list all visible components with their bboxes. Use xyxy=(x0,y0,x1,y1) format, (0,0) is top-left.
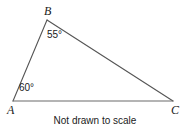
vertex-label-a: A xyxy=(7,104,14,116)
angle-label-a: 60° xyxy=(19,83,34,93)
triangle-diagram xyxy=(0,0,190,132)
angle-label-b: 55° xyxy=(47,30,62,40)
vertex-label-b: B xyxy=(44,5,51,17)
geometry-figure: B 55° 60° A C Not drawn to scale xyxy=(0,0,190,132)
vertex-label-c: C xyxy=(171,104,179,116)
figure-caption: Not drawn to scale xyxy=(0,116,190,126)
triangle-side-bc xyxy=(47,20,173,101)
